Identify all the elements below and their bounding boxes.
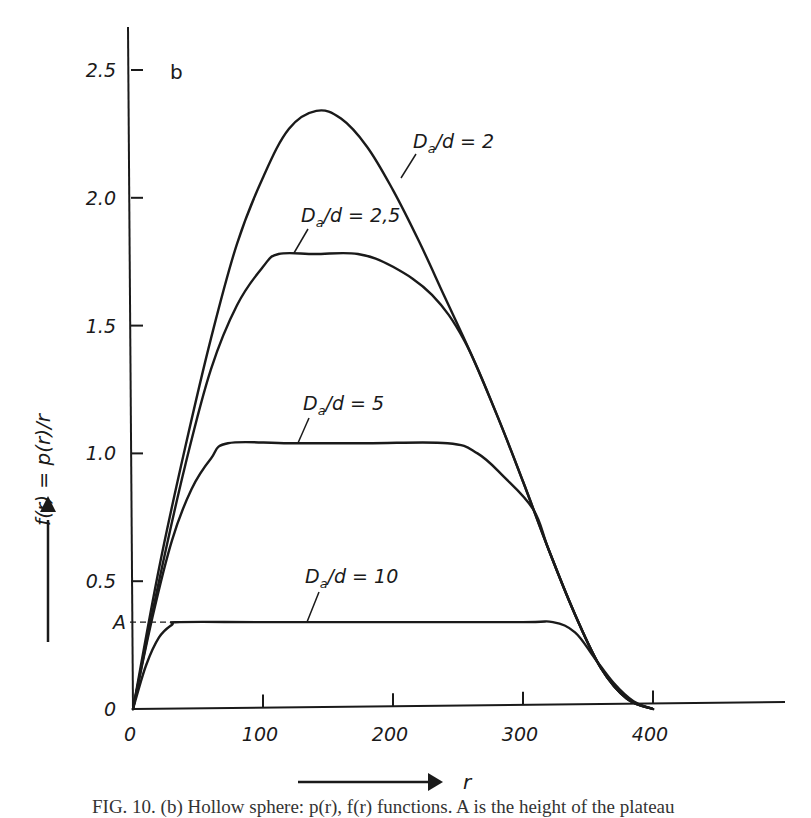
y-tick-label: 2.5 — [86, 59, 116, 81]
y-axis-title: f(r) = p(r)/r — [31, 412, 56, 642]
svg-text:Da/d = 10: Da/d = 10 — [305, 565, 398, 591]
curve-da-d-2-5 — [133, 253, 653, 709]
x-tick-label: 200 — [372, 723, 408, 745]
chart-svg: 00.51.01.52.02.5 0100200300400 b A Da/d … — [0, 0, 811, 800]
x-tick-label: 0 — [124, 723, 136, 745]
y-tick-label: 0 — [104, 698, 116, 720]
svg-text:r: r — [463, 770, 473, 794]
x-arrow-head-icon — [428, 773, 443, 791]
curve-label-da-d-2: Da/d = 2 — [401, 130, 494, 178]
x-ticks: 0100200300400 — [124, 690, 668, 745]
curve-label-da-d-10: Da/d = 10 — [305, 565, 398, 622]
y-tick-label: 0.5 — [86, 570, 116, 592]
x-axis — [133, 702, 785, 709]
y-axis — [128, 27, 133, 709]
y-tick-label: 1.5 — [86, 315, 116, 337]
panel-label: b — [170, 60, 183, 84]
curve-label-da-d-2-5: Da/d = 2,5 — [294, 204, 400, 253]
y-tick-label: 2.0 — [86, 187, 116, 209]
svg-text:Da/d = 2,5: Da/d = 2,5 — [301, 204, 400, 230]
svg-text:Da/d = 2: Da/d = 2 — [413, 130, 494, 156]
curves — [133, 110, 653, 709]
plateau-a-label: A — [111, 611, 126, 633]
figure-caption: FIG. 10. (b) Hollow sphere: p(r), f(r) f… — [92, 796, 675, 818]
x-tick-label: 300 — [502, 723, 538, 745]
x-tick-label: 400 — [632, 723, 668, 745]
x-axis-title: r — [298, 770, 473, 794]
x-tick-label: 100 — [242, 723, 278, 745]
svg-text:Da/d = 5: Da/d = 5 — [303, 392, 384, 418]
curve-label-da-d-5: Da/d = 5 — [298, 392, 384, 443]
y-tick-label: 1.0 — [86, 442, 116, 464]
curve-da-d-2 — [133, 110, 653, 709]
